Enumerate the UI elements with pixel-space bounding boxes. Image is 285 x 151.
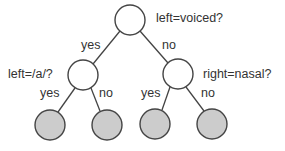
right-question-label: right=nasal? (203, 67, 271, 81)
leaf-node-2 (92, 110, 122, 140)
edge-label-right-yes: yes (141, 86, 160, 100)
root-question-label: left=voiced? (156, 11, 223, 25)
leaf-node-3 (140, 109, 170, 139)
edge-right-leaf3 (162, 87, 170, 110)
node-right (163, 59, 193, 89)
edge-label-left-yes: yes (40, 86, 59, 100)
node-root (115, 5, 145, 35)
edge-label-root-yes: yes (81, 38, 100, 52)
edge-label-left-no: no (99, 86, 113, 100)
edge-label-root-no: no (162, 38, 176, 52)
leaf-node-4 (197, 109, 227, 139)
left-question-label: left=/a/? (8, 67, 53, 81)
edge-label-right-no: no (201, 86, 215, 100)
node-left (68, 60, 98, 90)
edge-left-leaf1 (58, 88, 75, 112)
leaf-node-1 (35, 110, 65, 140)
